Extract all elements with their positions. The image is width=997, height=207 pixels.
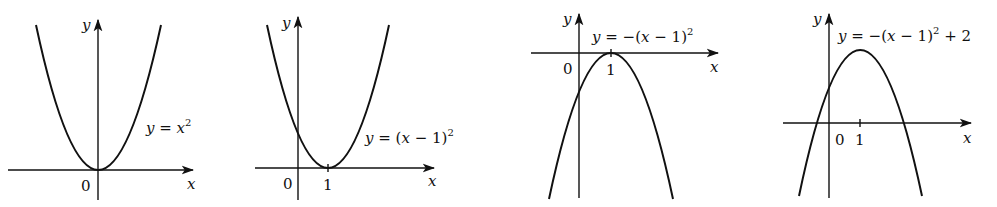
graph-y-equals-x-squared: y x 0 y = x2 — [8, 16, 196, 200]
origin-label: 0 — [563, 60, 573, 78]
y-axis-label: y — [812, 10, 822, 28]
equation-label: y = −(x − 1)2 + 2 — [837, 25, 971, 45]
graph-y-equals-neg-x-minus-1-squared-plus-2: y x 0 1 y = −(x − 1)2 + 2 — [783, 10, 972, 198]
origin-label: 0 — [835, 131, 845, 149]
x-axis-label: x — [963, 129, 972, 147]
graph-y-equals-x-minus-1-squared: y x 0 1 y = (x − 1)2 — [255, 14, 454, 200]
origin-label: 0 — [283, 175, 293, 193]
x-axis-label: x — [710, 58, 719, 76]
tick-label-1: 1 — [606, 61, 616, 79]
y-axis-label: y — [281, 14, 291, 32]
equation-label: y = −(x − 1)2 — [591, 26, 693, 46]
parabola-figure: y x 0 y = x2 y x 0 1 y = (x − 1)2 y x 0 … — [0, 0, 997, 207]
graph-y-equals-neg-x-minus-1-squared: y x 0 1 y = −(x − 1)2 — [531, 10, 719, 199]
x-axis-label: x — [187, 175, 196, 193]
equation-label: y = (x − 1)2 — [364, 127, 454, 147]
tick-label-1: 1 — [323, 176, 333, 194]
tick-label-1: 1 — [855, 131, 865, 149]
origin-label: 0 — [81, 177, 91, 195]
y-axis-label: y — [81, 16, 91, 34]
equation-label: y = x2 — [145, 117, 191, 137]
x-axis-label: x — [428, 172, 437, 190]
y-axis-label: y — [562, 10, 572, 28]
